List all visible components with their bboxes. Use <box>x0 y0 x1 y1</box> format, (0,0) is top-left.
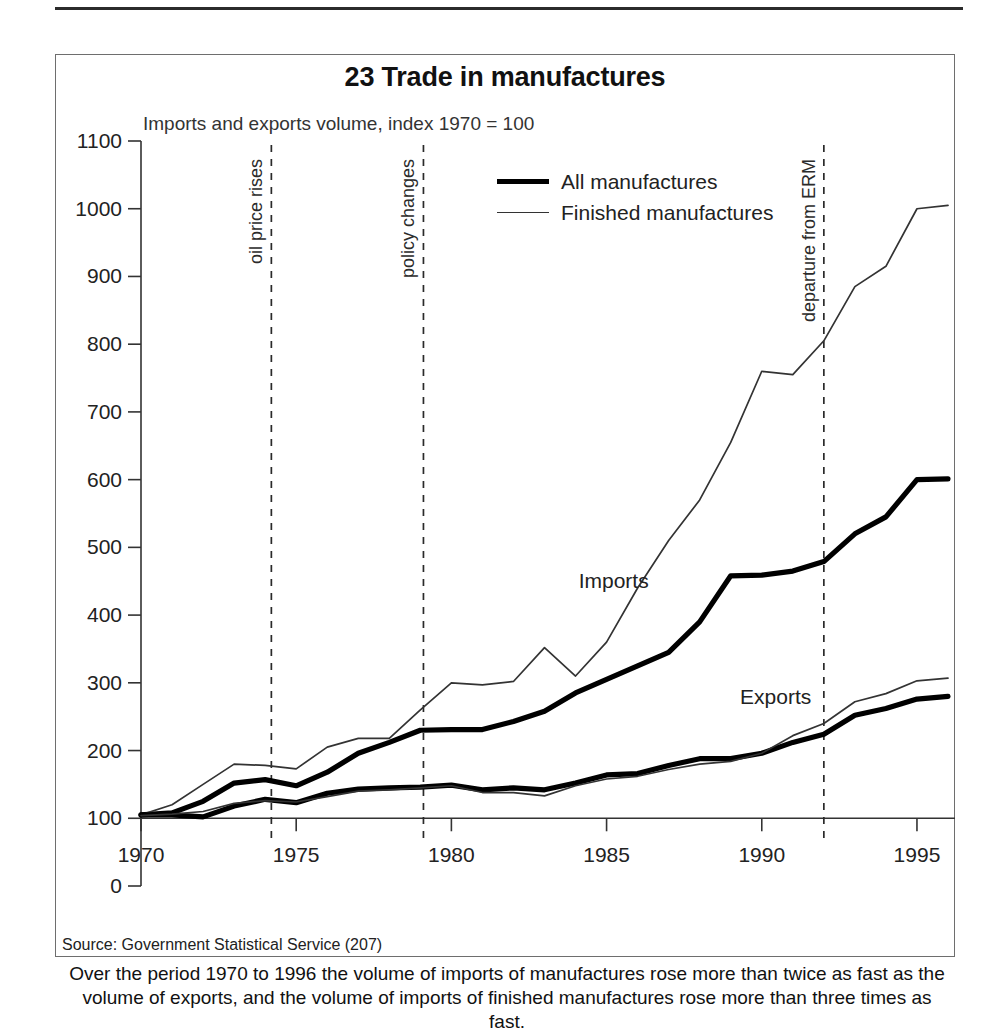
y-tick-label: 900 <box>87 264 122 287</box>
y-tick-label: 600 <box>87 468 122 491</box>
inline-label: Exports <box>740 685 811 708</box>
x-tick-label: 1970 <box>118 843 165 866</box>
inline-series-labels: ImportsExports <box>579 569 812 708</box>
y-tick-label: 1000 <box>75 197 122 220</box>
x-tick-label: 1980 <box>428 843 475 866</box>
source-note: Source: Government Statistical Service (… <box>62 936 382 954</box>
y-tick-label: 500 <box>87 535 122 558</box>
inline-label: Imports <box>579 569 649 592</box>
y-tick-label: 300 <box>87 671 122 694</box>
y-tick-label: 0 <box>110 874 122 897</box>
y-tick-label: 1100 <box>77 129 122 152</box>
data-series-group <box>141 205 948 817</box>
series-line <box>141 696 948 817</box>
x-tick-label: 1985 <box>583 843 630 866</box>
x-axis-ticks: 197019751980198519901995 <box>118 818 941 866</box>
figure-caption: Over the period 1970 to 1996 the volume … <box>62 962 952 1032</box>
event-marker-lines: oil price risespolicy changesdeparture f… <box>246 145 823 840</box>
event-label: policy changes <box>398 159 418 278</box>
y-axis-ticks: 010020030040050060070080090010001100 <box>75 129 141 897</box>
event-label: departure from ERM <box>799 159 819 322</box>
y-tick-label: 100 <box>87 806 122 829</box>
y-tick-label: 400 <box>87 603 122 626</box>
series-line <box>141 205 948 815</box>
y-tick-label: 800 <box>87 332 122 355</box>
x-tick-label: 1995 <box>894 843 941 866</box>
line-chart-plot: 010020030040050060070080090010001100 197… <box>0 0 989 1032</box>
y-tick-label: 200 <box>87 739 122 762</box>
event-label: oil price rises <box>246 159 266 264</box>
x-tick-label: 1990 <box>738 843 785 866</box>
x-tick-label: 1975 <box>273 843 320 866</box>
y-tick-label: 700 <box>87 400 122 423</box>
series-line <box>141 678 948 815</box>
